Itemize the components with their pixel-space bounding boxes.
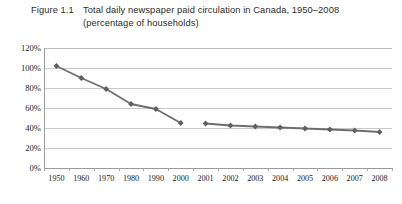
data-point-marker xyxy=(78,75,84,81)
series-plot xyxy=(0,38,402,204)
data-point-marker xyxy=(203,121,209,127)
chart-area: 120%100%80%60%40%20%0% 19501960197019801… xyxy=(0,38,402,204)
figure-title-line-2: (percentage of households) xyxy=(83,17,391,30)
figure-caption-line-1: Figure 1.1Total daily newspaper paid cir… xyxy=(31,4,391,17)
data-point-marker xyxy=(377,129,383,135)
series-line xyxy=(56,66,180,123)
data-point-marker xyxy=(327,127,333,133)
figure-caption: Figure 1.1Total daily newspaper paid cir… xyxy=(31,4,391,29)
figure-title-line-1: Total daily newspaper paid circulation i… xyxy=(83,4,339,17)
data-point-marker xyxy=(54,63,60,69)
data-point-marker xyxy=(252,124,258,130)
data-point-marker xyxy=(228,123,234,129)
data-point-marker xyxy=(302,126,308,132)
data-point-marker xyxy=(352,128,358,134)
data-point-marker xyxy=(277,125,283,131)
figure-number: Figure 1.1 xyxy=(31,4,83,17)
